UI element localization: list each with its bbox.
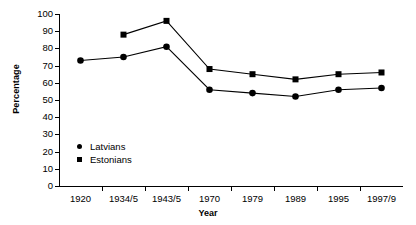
- square-marker-icon: [121, 32, 127, 38]
- series-line-estonians: [124, 21, 382, 79]
- y-tick-label: 90: [42, 26, 53, 36]
- y-tick: [55, 186, 59, 187]
- square-marker-icon: [207, 66, 213, 72]
- y-tick-label: 20: [42, 147, 53, 157]
- y-tick-label: 0: [48, 181, 53, 191]
- legend-item-estonians: Estonians: [73, 153, 132, 166]
- circle-marker-icon: [206, 86, 213, 93]
- circle-marker-icon: [292, 93, 299, 100]
- square-marker-icon: [336, 71, 342, 77]
- x-tick: [360, 186, 361, 191]
- y-tick-label: 50: [42, 95, 53, 105]
- x-tick: [188, 186, 189, 191]
- chart-figure: Percentage 0102030405060708090100 192019…: [0, 0, 416, 225]
- legend-label: Estonians: [90, 154, 132, 165]
- square-marker-icon: [250, 71, 256, 77]
- x-tick-label: 1970: [199, 194, 220, 204]
- square-marker-icon: [73, 157, 86, 162]
- y-axis-title: Percentage: [11, 49, 21, 129]
- square-marker-icon: [164, 18, 170, 24]
- x-tick-label: 1934/5: [109, 194, 138, 204]
- circle-marker-icon: [77, 57, 84, 64]
- square-marker-icon: [293, 76, 299, 82]
- x-tick-label: 1997/9: [367, 194, 396, 204]
- x-tick-label: 1989: [285, 194, 306, 204]
- circle-marker-icon: [335, 86, 342, 93]
- circle-marker-icon: [378, 85, 385, 92]
- x-tick: [317, 186, 318, 191]
- x-tick-label: 1943/5: [152, 194, 181, 204]
- x-tick: [274, 186, 275, 191]
- y-tick-label: 70: [42, 61, 53, 71]
- y-tick-label: 40: [42, 112, 53, 122]
- legend-label: Latvians: [90, 141, 125, 152]
- square-marker-icon: [379, 69, 385, 75]
- y-tick-label: 60: [42, 78, 53, 88]
- x-tick-label: 1979: [242, 194, 263, 204]
- x-axis-title: Year: [0, 208, 416, 218]
- x-tick: [145, 186, 146, 191]
- x-tick: [102, 186, 103, 191]
- y-tick-label: 100: [37, 9, 53, 19]
- y-tick-label: 30: [42, 130, 53, 140]
- circle-marker-icon: [120, 54, 127, 61]
- x-tick: [231, 186, 232, 191]
- y-tick-label: 10: [42, 164, 53, 174]
- legend-item-latvians: Latvians: [73, 140, 132, 153]
- y-tick-label: 80: [42, 44, 53, 54]
- circle-marker-icon: [163, 43, 170, 50]
- x-tick-label: 1995: [328, 194, 349, 204]
- plot-area: 0102030405060708090100 19201934/51943/51…: [59, 14, 403, 186]
- circle-marker-icon: [73, 144, 86, 149]
- chart-legend: Latvians Estonians: [73, 140, 132, 166]
- circle-marker-icon: [249, 90, 256, 97]
- x-tick-label: 1920: [70, 194, 91, 204]
